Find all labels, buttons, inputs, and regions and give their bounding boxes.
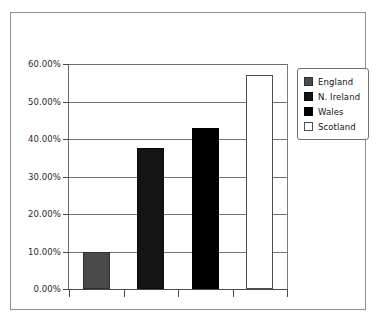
bar-england bbox=[83, 252, 110, 290]
x-axis-tick bbox=[124, 289, 125, 297]
y-axis-label: 10.00% bbox=[28, 247, 61, 257]
y-axis-tick bbox=[63, 102, 69, 103]
y-axis-label: 60.00% bbox=[28, 59, 61, 69]
y-axis-label: 20.00% bbox=[28, 209, 61, 219]
y-axis-label: 30.00% bbox=[28, 172, 61, 182]
gridline bbox=[69, 64, 287, 65]
plot-area: 0.00%10.00%20.00%30.00%40.00%50.00%60.00… bbox=[68, 64, 288, 290]
x-axis-tick bbox=[178, 289, 179, 297]
y-axis-tick bbox=[63, 252, 69, 253]
chart-legend: EnglandN. IrelandWalesScotland bbox=[297, 68, 369, 140]
chart-figure-frame: 0.00%10.00%20.00%30.00%40.00%50.00%60.00… bbox=[10, 12, 366, 310]
y-axis-tick bbox=[63, 214, 69, 215]
bar-nireland bbox=[137, 148, 164, 289]
legend-swatch-icon bbox=[304, 92, 313, 101]
bar-wales bbox=[192, 128, 219, 289]
x-axis-tick bbox=[287, 289, 288, 297]
x-axis-tick bbox=[69, 289, 70, 297]
legend-swatch-icon bbox=[304, 77, 313, 86]
y-axis-label: 0.00% bbox=[33, 284, 61, 294]
legend-item-label: Scotland bbox=[318, 122, 356, 132]
legend-swatch-icon bbox=[304, 107, 313, 116]
legend-item-label: Wales bbox=[318, 107, 344, 117]
legend-swatch-icon bbox=[304, 122, 313, 131]
legend-item: N. Ireland bbox=[304, 89, 363, 104]
y-axis-tick bbox=[63, 64, 69, 65]
y-axis-tick bbox=[63, 139, 69, 140]
y-axis-tick bbox=[63, 177, 69, 178]
y-axis-label: 50.00% bbox=[28, 97, 61, 107]
cropped-title-remnant bbox=[188, 0, 268, 4]
legend-item-label: N. Ireland bbox=[318, 92, 360, 102]
legend-item: Scotland bbox=[304, 119, 363, 134]
x-axis-tick bbox=[233, 289, 234, 297]
bar-scotland bbox=[246, 75, 273, 289]
legend-item-label: England bbox=[318, 77, 353, 87]
legend-item: England bbox=[304, 74, 363, 89]
y-axis-label: 40.00% bbox=[28, 134, 61, 144]
legend-item: Wales bbox=[304, 104, 363, 119]
